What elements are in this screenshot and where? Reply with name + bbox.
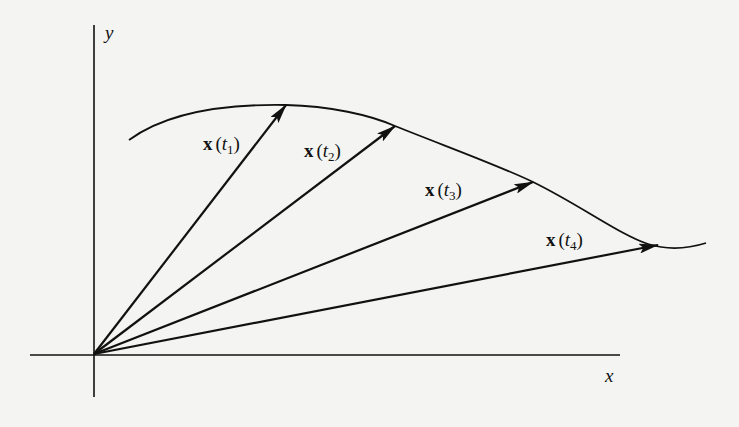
label-x-t1: x(t1)	[203, 133, 240, 157]
x-axis-label: x	[604, 365, 614, 386]
label-x-t2: x(t2)	[304, 140, 341, 164]
vector-x-t4	[94, 245, 658, 354]
position-vector-diagram: y x x(t1) x(t2) x(t3) x(t4)	[0, 0, 739, 427]
label-x-t3: x(t3)	[425, 179, 462, 203]
label-x-t4: x(t4)	[546, 229, 583, 253]
position-vectors	[94, 105, 658, 354]
y-axis-label: y	[103, 22, 114, 43]
